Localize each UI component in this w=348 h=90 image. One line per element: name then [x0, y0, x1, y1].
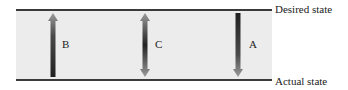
- arrow-b: [48, 13, 58, 77]
- arrow-c-label: C: [155, 38, 162, 50]
- arrow-c: [140, 13, 150, 77]
- arrows-layer: [0, 0, 348, 90]
- arrow-a: [233, 13, 243, 77]
- arrow-b-shape: [48, 13, 58, 77]
- arrow-c-shape: [140, 13, 150, 77]
- arrow-a-label: A: [249, 38, 257, 50]
- arrow-a-shape: [233, 13, 243, 77]
- arrow-b-label: B: [62, 38, 69, 50]
